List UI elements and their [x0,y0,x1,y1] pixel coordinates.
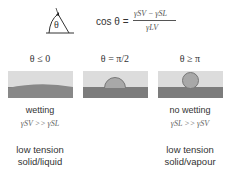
label-nonwetting: no wetting [150,105,229,115]
relation-wetting: γSV >> γSL [0,119,80,128]
desc-nonwetting-line1: low tension [150,144,229,155]
desc-nonwetting-line2: solid/vapour [150,156,229,167]
substrate [83,87,148,98]
young-equation: cos θ = γSV − γSL γLV [96,8,186,36]
desc-wetting-line1: low tension [0,144,80,155]
panel-neutral [83,71,148,98]
contact-angle-icon: θ [44,6,76,36]
theta-symbol: θ [54,19,59,30]
equation-lhs: cos θ = [96,16,129,27]
case-title-nonwetting: θ ≥ π [155,53,225,64]
panel-wetting [8,71,73,98]
case-title-neutral: θ = π/2 [80,53,150,64]
droplet [182,72,199,89]
desc-wetting-line2: solid/liquid [0,156,80,167]
label-wetting: wetting [0,105,80,115]
equation-numerator: γSV − γSL [134,9,167,18]
relation-nonwetting: γSL >> γSV [150,119,229,128]
panel-nonwetting [158,71,223,98]
equation-denominator: γLV [146,23,158,32]
fraction-bar [133,20,176,21]
case-title-wetting: θ ≤ 0 [5,53,75,64]
